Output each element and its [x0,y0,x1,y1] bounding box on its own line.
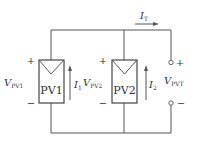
output-plus-terminal-icon [169,60,173,64]
output-terminals: + − VPVT [164,57,185,109]
pv1-plus-sign: + [27,55,35,66]
wires [51,30,171,133]
output-voltage-label: VPVT [164,75,184,87]
output-minus-sign: − [177,98,185,109]
output-minus-terminal-icon [169,101,173,105]
pv1-minus-sign: − [27,98,35,109]
pv2-plus-sign: + [99,55,107,66]
total-current: IT [135,10,159,26]
pv2-label: PV2 [113,84,135,97]
pv2-minus-sign: − [99,98,107,109]
pv2-voltage-label: VPV2 [83,77,103,89]
i2-label: I2 [148,79,157,91]
pv2-module: PV2 + − VPV2 I2 [83,55,157,109]
it-label: IT [139,10,148,22]
pv1-label: PV1 [40,84,62,97]
i1-arrow-icon [68,65,72,71]
pv1-module: PV1 + − VPV1 I1 [4,55,82,109]
output-plus-sign: + [176,57,184,68]
i2-arrow-icon [144,65,148,71]
it-arrow-icon [153,22,159,26]
pv1-voltage-label: VPV1 [4,77,23,89]
circuit-diagram: PV1 + − VPV1 I1 PV2 + − VPV2 I2 + − VPVT… [0,0,205,145]
i1-label: I1 [73,79,82,91]
